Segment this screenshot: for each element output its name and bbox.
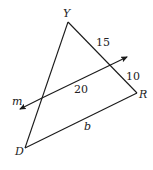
vertex-label-Y: Y (63, 8, 70, 19)
segment-label-15: 15 (96, 37, 110, 48)
side-DR (25, 93, 137, 148)
segment-label-20: 20 (74, 84, 88, 95)
side-YD (25, 22, 68, 148)
segment-label-10: 10 (126, 71, 140, 82)
vertex-label-R: R (139, 89, 147, 100)
vertex-label-D: D (15, 146, 24, 157)
segment-label-b: b (84, 121, 91, 132)
line-label-m: m (12, 96, 22, 107)
